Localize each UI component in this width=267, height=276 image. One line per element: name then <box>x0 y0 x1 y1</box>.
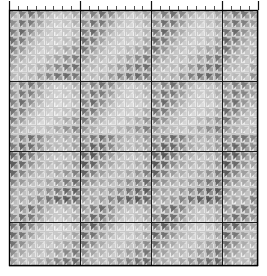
chart-figure <box>0 0 267 276</box>
heatmap-grid-canvas <box>0 0 267 276</box>
